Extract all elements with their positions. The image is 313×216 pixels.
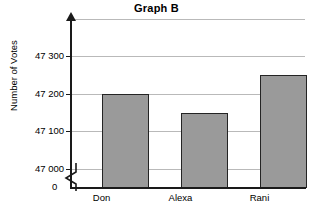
y-tick-label-47300: 47 300 <box>2 50 64 61</box>
x-label-rani: Rani <box>236 192 283 203</box>
y-tick-label-47200: 47 200 <box>2 88 64 99</box>
x-label-don: Don <box>78 192 125 203</box>
plot-area <box>71 18 305 188</box>
x-axis-line <box>70 187 306 189</box>
gridline-47300 <box>71 56 305 57</box>
y-axis-title: Number of Votes <box>8 16 19 136</box>
y-origin-label: 0 <box>52 181 57 192</box>
y-tick-47300 <box>66 56 72 57</box>
y-tick-47100 <box>66 131 72 132</box>
y-tick-label-47100: 47 100 <box>2 125 64 136</box>
bar-alexa[interactable] <box>181 113 228 188</box>
bar-chart: Graph B Number of Votes 47 300 47 200 47… <box>0 0 313 216</box>
gridline-top <box>71 19 305 20</box>
chart-title: Graph B <box>0 2 313 14</box>
bar-rani[interactable] <box>260 75 307 188</box>
y-tick-47200 <box>66 94 72 95</box>
y-tick-label-47000: 47 000 <box>2 163 64 174</box>
x-label-alexa: Alexa <box>157 192 204 203</box>
axis-break-icon <box>60 163 82 191</box>
bar-don[interactable] <box>102 94 149 188</box>
y-axis-arrow-icon <box>66 12 76 21</box>
